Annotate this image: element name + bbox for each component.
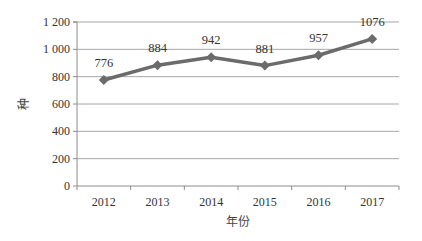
data-label: 884	[148, 41, 168, 55]
y-tick-label: 0	[64, 179, 70, 193]
y-tick-label: 800	[52, 70, 70, 84]
x-tick-label: 2015	[253, 195, 277, 209]
data-series	[99, 34, 377, 85]
x-tick-label: 2017	[360, 195, 384, 209]
x-tick-label: 2014	[199, 195, 223, 209]
data-label: 776	[94, 56, 113, 70]
gridlines	[77, 22, 399, 159]
x-tick-label: 2012	[92, 195, 116, 209]
diamond-marker	[314, 50, 324, 60]
y-tick-label: 1 200	[43, 15, 70, 29]
y-axis-label: 种	[17, 98, 31, 110]
x-axis-label: 年份	[226, 215, 250, 229]
diamond-marker	[206, 52, 216, 62]
x-tick-label: 2013	[146, 195, 170, 209]
data-label: 881	[255, 42, 274, 56]
data-label: 942	[202, 33, 221, 47]
diamond-marker	[153, 60, 163, 70]
diamond-marker	[260, 61, 270, 71]
y-tick-label: 600	[52, 97, 70, 111]
y-axis-tick-labels: 02004006008001 0001 200	[43, 15, 70, 193]
x-tick-label: 2016	[307, 195, 331, 209]
y-tick-label: 200	[52, 152, 70, 166]
y-tick-label: 400	[52, 124, 70, 138]
data-label: 957	[309, 31, 328, 45]
line-chart: 02004006008001 0001 200 2012201320142015…	[0, 0, 422, 241]
y-tick-label: 1 000	[43, 42, 70, 56]
series-line	[104, 39, 372, 80]
diamond-marker	[367, 34, 377, 44]
x-axis-tick-labels: 201220132014201520162017	[92, 195, 384, 209]
data-label: 1076	[360, 15, 385, 29]
